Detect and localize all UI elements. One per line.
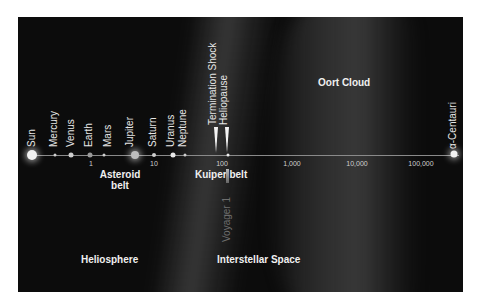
tick-10: 10 xyxy=(150,160,158,167)
neptune-dot xyxy=(184,154,187,157)
venus-dot xyxy=(69,153,74,158)
tick-1: 1 xyxy=(89,160,93,167)
label-neptune: Neptune xyxy=(178,109,188,147)
label-sun: Sun xyxy=(27,129,37,147)
solar-system-diagram: Sun Mercury Venus Earth Mars Jupiter Sat… xyxy=(18,17,463,292)
label-mercury: Mercury xyxy=(49,111,59,147)
label-uranus: Uranus xyxy=(166,115,176,147)
label-voyager-1: Voyager 1 xyxy=(221,197,232,242)
label-saturn: Saturn xyxy=(148,118,158,147)
asteroid-belt-line1: Asteroid xyxy=(98,169,142,180)
label-alpha-centauri: α-Centauri xyxy=(448,102,458,149)
label-interstellar-space: Interstellar Space xyxy=(217,254,300,265)
label-asteroid-belt: Asteroid belt xyxy=(98,169,142,191)
label-oort-cloud: Oort Cloud xyxy=(318,77,370,88)
alpha-centauri-dot xyxy=(451,151,458,158)
earth-dot xyxy=(88,153,93,158)
label-jupiter: Jupiter xyxy=(125,117,135,147)
label-heliosphere: Heliosphere xyxy=(81,254,138,265)
tick-100: 100 xyxy=(216,160,228,167)
distance-axis xyxy=(34,155,459,156)
mercury-dot xyxy=(54,154,57,157)
heliopause-dot xyxy=(227,154,230,157)
tick-1000: 1,000 xyxy=(283,160,301,167)
label-termination-shock: Termination Shock xyxy=(208,43,218,125)
termination-shock-marker xyxy=(214,127,218,153)
sun-dot xyxy=(27,150,37,160)
tick-100000: 100,000 xyxy=(408,160,433,167)
saturn-dot xyxy=(152,153,156,157)
voyager-1-marker xyxy=(226,169,229,183)
tick-10000: 10,000 xyxy=(346,160,367,167)
label-venus: Venus xyxy=(66,119,76,147)
asteroid-belt-line2: belt xyxy=(98,180,142,191)
heliopause-marker xyxy=(225,127,229,153)
label-mars: Mars xyxy=(103,125,113,147)
mars-dot xyxy=(103,154,106,157)
label-kuiper-belt: Kuiper belt xyxy=(195,169,247,180)
uranus-dot xyxy=(171,153,176,158)
label-heliopause: Heliopause xyxy=(219,75,229,125)
label-earth: Earth xyxy=(84,123,94,147)
jupiter-dot xyxy=(131,151,139,159)
